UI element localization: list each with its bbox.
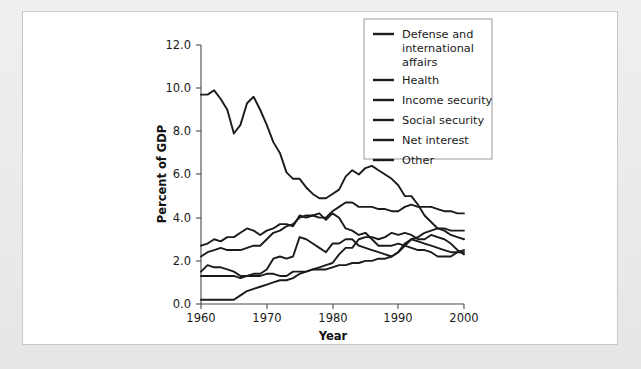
- x-tick-label-2000: 2000: [449, 311, 478, 325]
- legend-label-defense-line3: affairs: [402, 56, 437, 69]
- line-chart: 0.0 2.0 4.0 6.0 8.0 10.0 12.0 1960 1970: [23, 12, 619, 346]
- y-tick-label-10: 10.0: [165, 81, 191, 95]
- legend-label-other: Other: [402, 154, 434, 167]
- legend-label-health: Health: [402, 74, 439, 87]
- y-axis-ticks: [196, 45, 201, 304]
- x-axis-title: Year: [318, 329, 348, 343]
- legend: Defense and international affairs Health…: [364, 19, 493, 167]
- y-tick-label-6: 6.0: [173, 167, 191, 181]
- y-tick-label-8: 8.0: [173, 124, 191, 138]
- chart-svg: 0.0 2.0 4.0 6.0 8.0 10.0 12.0 1960 1970: [23, 12, 619, 346]
- legend-label-social-security: Social security: [402, 114, 485, 127]
- y-tick-label-0: 0.0: [173, 297, 191, 311]
- y-tick-label-2: 2.0: [173, 254, 191, 268]
- legend-label-defense-line1: Defense and: [402, 28, 473, 41]
- page-background: 0.0 2.0 4.0 6.0 8.0 10.0 12.0 1960 1970: [0, 0, 641, 369]
- x-tick-label-1970: 1970: [252, 311, 281, 325]
- legend-label-defense-line2: international: [402, 42, 474, 55]
- legend-label-net-interest: Net interest: [402, 134, 469, 147]
- x-axis-ticks: [201, 304, 464, 309]
- figure-panel: 0.0 2.0 4.0 6.0 8.0 10.0 12.0 1960 1970: [22, 11, 618, 345]
- y-axis-title: Percent of GDP: [155, 125, 169, 224]
- series-line-social-security: [201, 203, 464, 257]
- series-line-income-security: [201, 237, 464, 276]
- x-tick-label-1960: 1960: [186, 311, 215, 325]
- series-line-net-interest: [201, 233, 464, 278]
- x-tick-label-1980: 1980: [318, 311, 347, 325]
- y-tick-label-12: 12.0: [165, 38, 191, 52]
- x-tick-label-1990: 1990: [383, 311, 412, 325]
- legend-label-income-security: Income security: [402, 94, 493, 107]
- y-tick-label-4: 4.0: [173, 211, 191, 225]
